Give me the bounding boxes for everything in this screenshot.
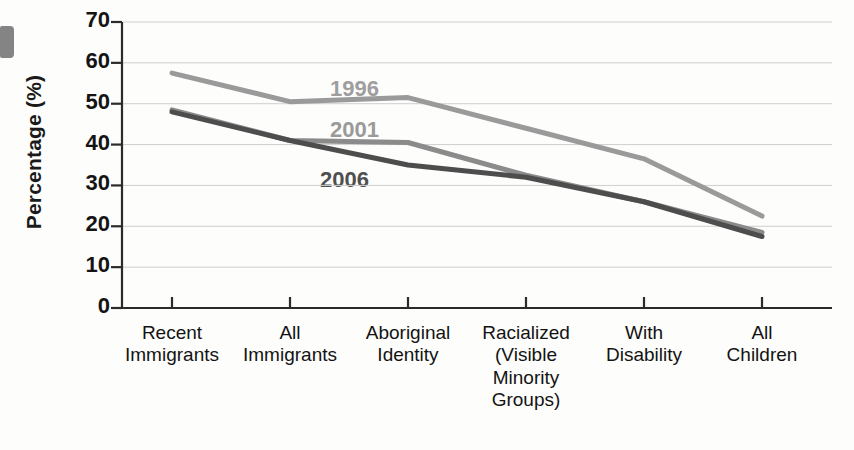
plot-area bbox=[0, 0, 854, 450]
line-chart: Percentage (%) 706050403020100 Recent Im… bbox=[0, 0, 854, 450]
